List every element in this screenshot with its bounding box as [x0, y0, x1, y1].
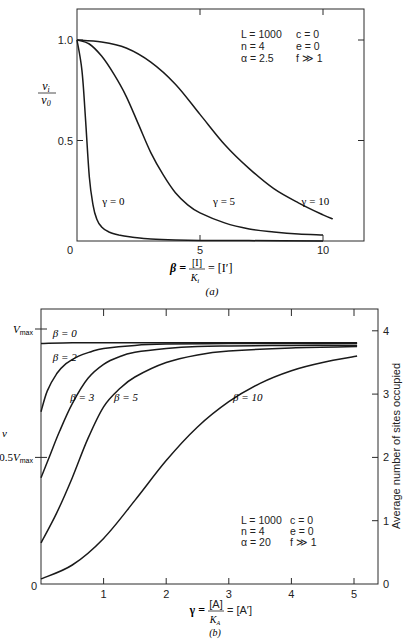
chart-b-curve-labels: β = 0β = 2β = 3β = 5β = 10 [52, 327, 263, 404]
y-tick-label: Vmax [13, 323, 33, 336]
x-tick-label: 3 [226, 588, 232, 600]
parameter: α = 2.5 [241, 52, 274, 64]
x-tick-label: 1 [101, 588, 107, 600]
svg-text:vi: vi [42, 79, 50, 94]
parameter: f ≫ 1 [296, 52, 323, 64]
curve--10 [77, 40, 333, 219]
parameter: α = 20 [241, 536, 271, 548]
curve-label: β = 0 [52, 327, 77, 339]
svg-text:KA: KA [209, 614, 221, 626]
chart-b: 012345012340.5VmaxVmax β = 0β = 2β = 3β … [0, 309, 402, 639]
parameter: f ≫ 1 [290, 536, 317, 548]
chart-a-x-axis-label: β = [I] Ki = [I′] [169, 257, 232, 285]
x-tick-label: 5 [351, 588, 357, 600]
chart-a-y-axis-label: vi v0 [38, 79, 56, 108]
chart-b-parameters: L = 1000c = 0n = 4e = 0α = 20f ≫ 1 [241, 514, 317, 548]
svg-text:[A]: [A] [209, 598, 222, 610]
curve-label: γ = 5 [212, 195, 236, 207]
x-tick-label: 4 [288, 588, 294, 600]
svg-text:β =: β = [169, 261, 186, 275]
y-tick-right-label: 0 [383, 578, 389, 590]
svg-text:= [I′]: = [I′] [208, 261, 232, 275]
curve-label: β = 2 [52, 351, 77, 363]
chart-b-frame [41, 309, 378, 584]
chart-b-caption: (b) [209, 627, 221, 639]
chart-a-caption: (a) [206, 285, 219, 298]
curve-label: β = 10 [232, 391, 263, 403]
chart-a-parameters: L = 1000c = 0n = 4e = 0α = 2.5f ≫ 1 [241, 28, 323, 64]
parameter: n = 4 [241, 40, 265, 52]
chart-b-y-axis-label: v [2, 427, 7, 439]
parameter: c = 0 [296, 28, 319, 40]
svg-text:Ki: Ki [190, 272, 200, 285]
parameter: e = 0 [296, 40, 320, 52]
chart-a-curves [77, 40, 333, 241]
x-tick-label: 5 [197, 244, 203, 256]
y-tick-label: 1.0 [58, 34, 73, 46]
x-tick-label: 0 [31, 580, 37, 592]
y-tick-right-label: 4 [383, 325, 389, 337]
figure: 05100.51.0 γ = 0γ = 5γ = 10 vi v0 L = 10… [0, 0, 406, 641]
chart-a: 05100.51.0 γ = 0γ = 5γ = 10 vi v0 L = 10… [38, 9, 364, 298]
y-tick-right-label: 1 [383, 515, 389, 527]
curve--0 [77, 40, 323, 241]
svg-text:= [A′]: = [A′] [227, 604, 252, 616]
y-tick-right-label: 3 [383, 388, 389, 400]
y-tick-right-label: 2 [383, 451, 389, 463]
curve-label: γ = 0 [101, 195, 125, 207]
parameter: L = 1000 [241, 28, 282, 40]
svg-text:γ =: γ = [189, 603, 206, 617]
x-tick-label: 2 [163, 588, 169, 600]
svg-text:v0: v0 [41, 93, 50, 108]
x-tick-label: 10 [317, 244, 329, 256]
curve-label: β = 3 [69, 391, 94, 403]
svg-text:[I]: [I] [192, 257, 202, 268]
curve-label: β = 5 [113, 391, 138, 403]
curve-label: γ = 10 [301, 195, 330, 207]
y-tick-label: 0.5 [58, 135, 73, 147]
x-tick-label: 0 [67, 244, 73, 256]
y-tick-label: 0.5Vmax [0, 451, 33, 464]
chart-b-x-axis-label: γ = [A] KA = [A′] [189, 598, 252, 626]
chart-b-right-axis-label: Average number of sites occupied [390, 363, 402, 529]
